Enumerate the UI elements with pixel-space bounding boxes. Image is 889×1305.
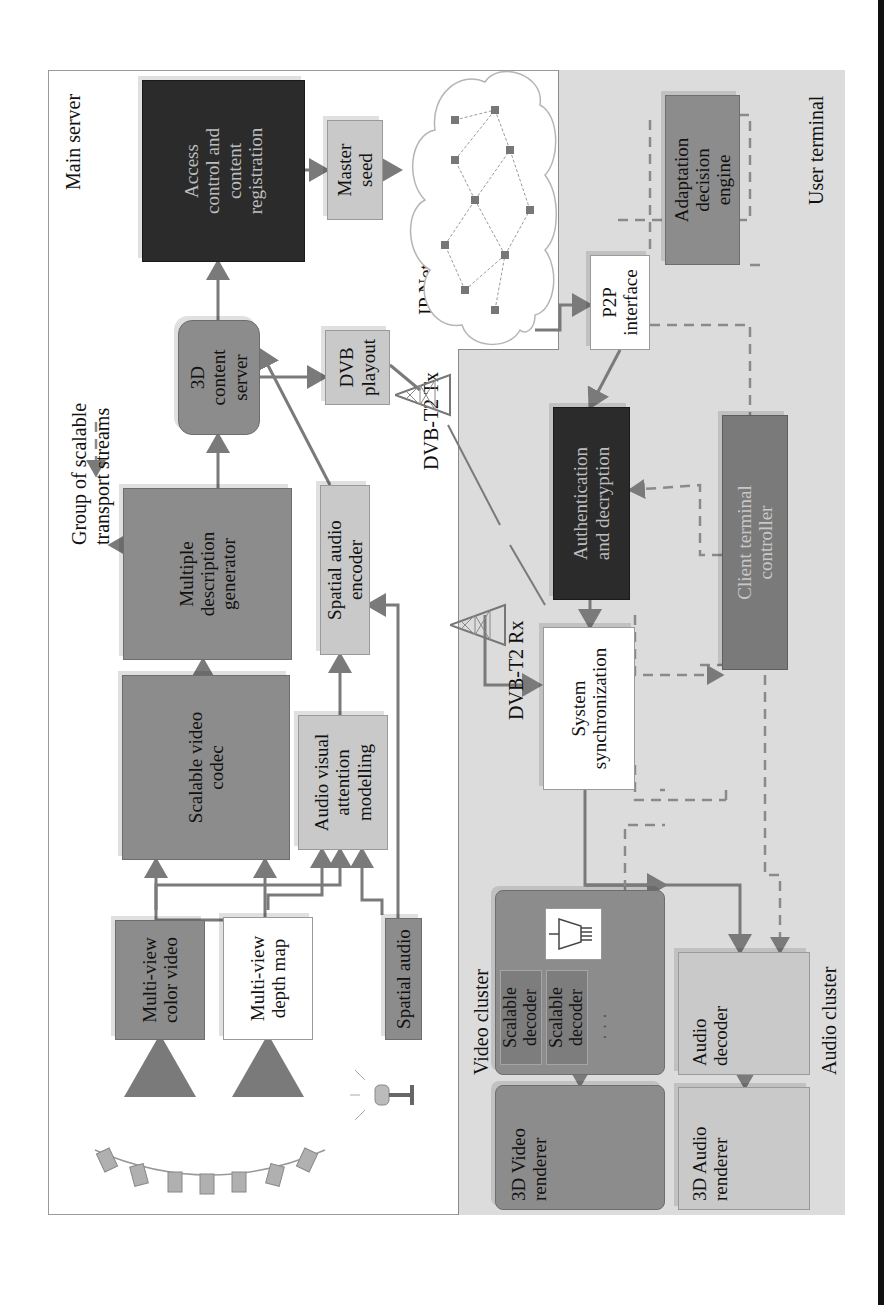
scalable-video-codec-block: Scalable video codec xyxy=(122,675,290,860)
main-server-label: Main server xyxy=(62,94,85,190)
system-sync-block: System synchronization xyxy=(543,627,635,790)
content-server-text: 3D content server xyxy=(187,350,251,406)
scalable-video-codec-text: Scalable video codec xyxy=(185,712,228,823)
decoder-ellipsis: · · · xyxy=(595,1013,616,1040)
audio-decoder-text: Audio decoder xyxy=(689,1006,732,1066)
system-sync-text: System synchronization xyxy=(568,648,611,769)
av-attention-block: Audio visual attention modelling xyxy=(298,715,388,850)
master-seed-block: Master seed xyxy=(327,120,383,220)
mv-depth-map-block: Multi-view depth map xyxy=(223,917,313,1040)
multiple-description-text: Multiple description generator xyxy=(176,532,240,616)
antenna-tower-icon xyxy=(450,600,510,650)
audio-cluster-label: Audio cluster xyxy=(818,967,841,1075)
video-cluster-label: Video cluster xyxy=(470,969,493,1075)
adaptation-engine-text: Adaptation decision engine xyxy=(671,138,735,222)
mv-depth-map-text: Multi-view depth map xyxy=(247,936,290,1022)
spatial-audio-block: Spatial audio xyxy=(385,918,422,1040)
audio-decoder-block: Audio decoder xyxy=(678,952,810,1075)
client-controller-block: Client terminal controller xyxy=(722,415,788,670)
auth-decrypt-block: Authentication and decryption xyxy=(553,407,630,600)
p2p-interface-text: P2P interface xyxy=(599,269,642,335)
access-control-text: Access control and content registration xyxy=(181,128,266,215)
mv-color-video-block: Multi-view color video xyxy=(115,920,205,1040)
diagram-rotated-canvas: Main server User terminal Video cluster … xyxy=(0,0,889,1305)
dvb-playout-block: DVB playout xyxy=(325,330,390,405)
scalable-decoder-1-text: Scalable decoder xyxy=(501,987,541,1048)
adaptation-engine-block: Adaptation decision engine xyxy=(665,95,740,265)
microphone-icon xyxy=(350,1055,430,1135)
spatial-audio-text: Spatial audio xyxy=(393,929,414,1029)
scalable-decoder-2-text: Scalable decoder xyxy=(547,987,587,1048)
mv-color-video-text: Multi-view color video xyxy=(139,937,182,1023)
scalable-decoder-2: Scalable decoder xyxy=(546,970,588,1065)
scalable-decoder-1: Scalable decoder xyxy=(500,970,542,1065)
content-server-block: 3D content server xyxy=(178,320,260,435)
demultiplexer-icon xyxy=(545,908,602,960)
access-control-block: Access control and content registration xyxy=(142,80,305,262)
client-controller-text: Client terminal controller xyxy=(734,485,777,600)
audio-renderer-block: 3D Audio renderer xyxy=(678,1087,810,1210)
antenna-tower-icon xyxy=(395,370,455,420)
av-attention-text: Audio visual attention modelling xyxy=(311,734,375,832)
p2p-interface-block: P2P interface xyxy=(590,255,650,350)
user-terminal-label: User terminal xyxy=(805,96,828,205)
auth-decrypt-text: Authentication and decryption xyxy=(570,447,613,560)
group-streams-label: Group of scalable transport streams xyxy=(68,403,114,545)
master-seed-text: Master seed xyxy=(334,144,377,197)
multiple-description-block: Multiple description generator xyxy=(123,488,292,660)
dvb-playout-text: DVB playout xyxy=(336,339,379,396)
video-renderer-text: 3D Video renderer xyxy=(508,1128,551,1201)
spatial-audio-encoder-block: Spatial audio encoder xyxy=(320,485,370,655)
network-cloud-icon xyxy=(400,60,560,350)
video-renderer-block: 3D Video renderer xyxy=(495,1085,665,1210)
camera-array-icon xyxy=(90,1080,330,1210)
spatial-audio-encoder-text: Spatial audio encoder xyxy=(324,520,367,620)
audio-renderer-text: 3D Audio renderer xyxy=(689,1127,732,1201)
